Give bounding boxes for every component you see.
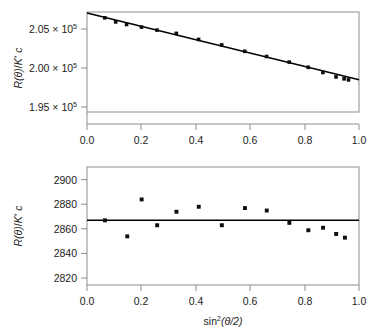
bottom-x-ticklabel-0: 0.0 <box>80 295 95 307</box>
top-panel-x-ticks <box>87 124 359 130</box>
data-point <box>334 75 338 79</box>
data-point <box>306 228 310 232</box>
bottom-panel-data-markers <box>103 198 347 240</box>
top-panel-data-markers <box>103 16 350 82</box>
bottom-panel-svg: 2900 2880 2860 2840 2820 0.0 0.2 0.4 0.6… <box>0 160 379 329</box>
bottom-panel-x-axis-title: sin2(θ/2) <box>204 315 243 327</box>
data-point <box>140 25 144 29</box>
light-scattering-zimm-figure: 2.05 × 105 2.00 × 105 1.95 × 105 0.0 0.2… <box>0 0 379 329</box>
bottom-x-ticklabel-4: 0.8 <box>298 295 313 307</box>
bottom-panel: 2900 2880 2860 2840 2820 0.0 0.2 0.4 0.6… <box>0 160 379 329</box>
bottom-y-ticklabel-4: 2820 <box>54 272 78 284</box>
top-panel-svg: 2.05 × 105 2.00 × 105 1.95 × 105 0.0 0.2… <box>0 0 379 160</box>
data-point <box>140 198 144 202</box>
svg-text:2.00 × 105: 2.00 × 105 <box>29 62 77 74</box>
bottom-ylabel-theta: (θ) <box>12 226 24 239</box>
top-x-ticklabel-5: 1.0 <box>352 134 367 146</box>
data-point <box>265 55 269 59</box>
top-ylabel-c: c <box>12 47 24 53</box>
svg-text:2.05 × 105: 2.05 × 105 <box>29 23 77 35</box>
bottom-y-ticklabel-0: 2900 <box>54 174 78 186</box>
top-y-ticklabel-1-exp: 5 <box>73 62 77 69</box>
data-point <box>321 71 325 75</box>
top-x-ticklabel-4: 0.8 <box>298 134 313 146</box>
bottom-panel-y-ticks <box>81 180 87 278</box>
data-point <box>155 28 159 32</box>
bottom-x-ticklabel-3: 0.6 <box>243 295 258 307</box>
data-point <box>114 20 118 24</box>
data-point <box>197 38 201 42</box>
bottom-x-ticklabel-5: 1.0 <box>352 295 367 307</box>
data-point <box>243 50 247 54</box>
bottom-panel-y-ticklabels: 2900 2880 2860 2840 2820 <box>54 174 78 284</box>
top-x-ticklabel-2: 0.4 <box>189 134 204 146</box>
bottom-y-ticklabel-1: 2880 <box>54 198 78 210</box>
top-panel-y-ticks <box>81 29 87 107</box>
top-y-ticklabel-0: 2.05 × 10 <box>29 23 73 35</box>
data-point <box>321 226 325 230</box>
xlabel-sin: sin <box>204 315 218 327</box>
data-point <box>287 60 291 64</box>
data-point <box>347 78 351 82</box>
xlabel-arg: (θ/2) <box>221 315 242 327</box>
top-x-ticklabel-0: 0.0 <box>80 134 95 146</box>
bottom-ylabel-c: c <box>12 205 24 211</box>
bottom-y-ticklabel-2: 2860 <box>54 223 78 235</box>
data-point <box>220 223 224 227</box>
top-y-ticklabel-1: 2.00 × 10 <box>29 62 73 74</box>
data-point <box>306 66 310 70</box>
top-x-ticklabel-3: 0.6 <box>243 134 258 146</box>
data-point <box>103 16 107 20</box>
top-panel-y-ticklabels: 2.05 × 105 2.00 × 105 1.95 × 105 <box>29 23 77 113</box>
top-panel-x-ticklabels: 0.0 0.2 0.4 0.6 0.8 1.0 <box>80 134 367 146</box>
top-y-ticklabel-0-exp: 5 <box>73 23 77 30</box>
data-point <box>175 32 179 36</box>
data-point <box>334 232 338 236</box>
data-point <box>103 218 107 222</box>
data-point <box>155 223 159 227</box>
bottom-y-ticklabel-3: 2840 <box>54 247 78 259</box>
data-point <box>125 234 129 238</box>
data-point <box>287 221 291 225</box>
data-point <box>343 236 347 240</box>
top-ylabel-theta: (θ) <box>12 68 24 81</box>
top-panel-y-axis-title: R(θ)/K* c <box>12 47 24 89</box>
bottom-x-ticklabel-2: 0.4 <box>189 295 204 307</box>
data-point <box>175 210 179 214</box>
bottom-panel-y-axis-title: R(θ)/K* c <box>12 205 24 247</box>
top-y-ticklabel-2: 1.95 × 10 <box>29 101 73 113</box>
bottom-panel-x-ticklabels: 0.0 0.2 0.4 0.6 0.8 1.0 <box>80 295 367 307</box>
data-point <box>125 23 129 27</box>
svg-text:1.95 × 105: 1.95 × 105 <box>29 101 77 113</box>
data-point <box>197 205 201 209</box>
bottom-panel-x-ticks <box>87 285 359 291</box>
data-point <box>342 77 346 81</box>
bottom-x-ticklabel-1: 0.2 <box>134 295 149 307</box>
top-panel: 2.05 × 105 2.00 × 105 1.95 × 105 0.0 0.2… <box>0 0 379 160</box>
top-panel-frame <box>87 12 359 124</box>
data-point <box>243 206 247 210</box>
data-point <box>220 43 224 47</box>
data-point <box>265 209 269 213</box>
top-x-ticklabel-1: 0.2 <box>134 134 149 146</box>
top-y-ticklabel-2-exp: 5 <box>73 101 77 108</box>
